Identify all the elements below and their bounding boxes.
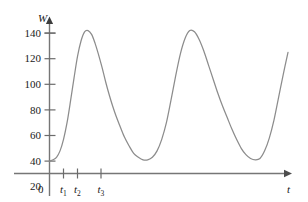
y-tick-label-40: 40 (30, 155, 42, 167)
x-axis-arrow-icon (284, 170, 292, 177)
y-tick-label-100: 100 (25, 78, 42, 90)
x-tick-label-t3: t3 (98, 183, 105, 198)
x-tick-label-t2: t2 (74, 183, 81, 198)
y-tick-label-120: 120 (25, 52, 42, 64)
y-axis-label: W (38, 12, 48, 24)
x-axis-label: t (287, 183, 291, 195)
x-tick-label-t3-sub: 3 (101, 189, 105, 198)
y-tick-label-60: 60 (30, 129, 42, 141)
data-series-line (50, 30, 289, 161)
x-tick-label-t1: t1 (60, 183, 67, 198)
chart-container: 140 120 100 80 60 40 20 0 W t1 t2 t3 0 t (0, 0, 308, 202)
zero-label: 0 (38, 183, 44, 195)
y-tick-label-140: 140 (25, 27, 42, 39)
x-tick-label-t1-sub: 1 (63, 189, 67, 198)
x-tick-label-t2-sub: 2 (77, 189, 81, 198)
chart-svg: 140 120 100 80 60 40 20 0 W t1 t2 t3 0 t (0, 0, 308, 202)
y-tick-label-80: 80 (30, 104, 42, 116)
